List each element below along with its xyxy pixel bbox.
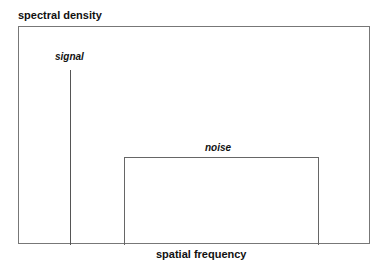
y-axis-label: spectral density xyxy=(18,9,102,21)
noise-label: noise xyxy=(205,142,231,153)
signal-impulse xyxy=(70,70,71,245)
signal-label: signal xyxy=(55,51,84,62)
noise-band xyxy=(124,157,319,245)
x-axis-label: spatial frequency xyxy=(156,248,246,260)
